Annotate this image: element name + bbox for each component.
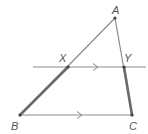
segment-yc-thick bbox=[124, 67, 132, 115]
label-b: B bbox=[11, 120, 18, 132]
point-a bbox=[113, 16, 116, 19]
label-c: C bbox=[129, 120, 137, 132]
segment-bx-thick bbox=[20, 67, 68, 115]
point-b bbox=[18, 113, 21, 116]
point-y bbox=[122, 65, 125, 68]
label-x: X bbox=[58, 52, 67, 64]
geometry-diagram: A X Y B C bbox=[0, 0, 148, 134]
label-a: A bbox=[111, 4, 119, 16]
label-y: Y bbox=[124, 52, 132, 64]
point-c bbox=[130, 113, 133, 116]
point-x bbox=[66, 65, 69, 68]
